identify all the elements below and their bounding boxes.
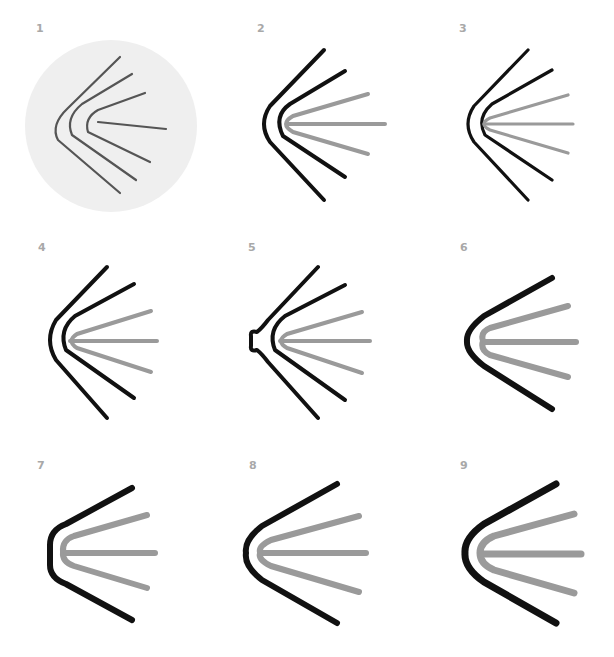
panel-number-label: 6 [460, 241, 468, 254]
panel-4 [50, 267, 157, 418]
inner-ray-2 [63, 552, 147, 588]
panel-number-label: 1 [36, 22, 44, 35]
panel-number-label: 2 [257, 22, 265, 35]
panel-number-label: 7 [37, 459, 45, 472]
panel-number-label: 8 [249, 459, 257, 472]
panel-number-label: 3 [459, 22, 467, 35]
panel-2 [264, 50, 385, 200]
panel-number-label: 4 [38, 241, 46, 254]
panel-1 [25, 40, 197, 212]
panel-3 [468, 50, 573, 200]
panel-number-label: 9 [460, 459, 468, 472]
panel-5 [251, 267, 370, 418]
panel-number-label: 5 [248, 241, 256, 254]
iterations-svg [0, 0, 614, 657]
panel-6 [467, 278, 576, 409]
panel-9 [465, 484, 581, 623]
panel-8 [246, 484, 366, 623]
panel-7 [50, 488, 155, 620]
